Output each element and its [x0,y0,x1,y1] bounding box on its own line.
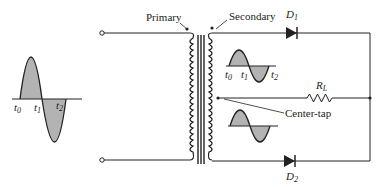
primary-arrow [180,23,188,30]
rl-label: RL [315,79,328,93]
resistor-rl [218,94,370,102]
d2-label: D2 [285,170,298,184]
input-terminal-top [100,31,104,35]
secondary-arrow [216,20,227,29]
center-tap-arrow [224,99,284,113]
input-waveform: t0 t1 t2 [12,57,82,142]
transformer-core [198,35,204,164]
d1-label: D1 [285,8,298,22]
input-t0-label: t0 [14,101,21,115]
secondary-waveform-upper: t0 t1 t2 [225,50,278,82]
upper-t1-label: t1 [241,68,248,82]
rectifier-diagram: t0 t1 t2 Primary Secondary D1 [0,0,381,187]
secondary-coil [208,33,212,160]
input-terminal-bottom [100,158,104,162]
secondary-waveform-lower [228,110,278,142]
center-tap-label: Center-tap [285,107,332,119]
secondary-polarity-dot [210,26,213,29]
primary-label: Primary [146,11,182,23]
upper-t2-label: t2 [271,68,278,82]
primary-coil [190,33,194,160]
input-t1-label: t1 [34,101,41,115]
upper-t0-label: t0 [225,68,232,82]
output-node [368,96,371,99]
diode-d1 [286,27,297,39]
secondary-label: Secondary [229,10,276,22]
primary-leads [100,31,190,162]
diode-d2 [284,155,295,167]
